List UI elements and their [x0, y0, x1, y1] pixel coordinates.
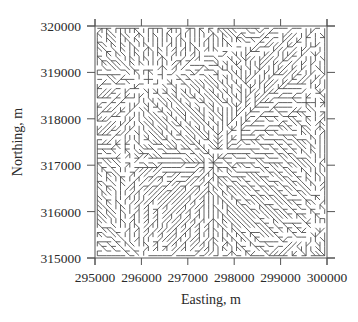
x-tick-label: 296000	[121, 270, 162, 285]
x-tick-label: 295000	[75, 270, 116, 285]
y-tick-label: 316000	[41, 205, 82, 220]
x-axis-ticks: 295000296000297000298000299000300000	[75, 19, 348, 285]
y-tick-label: 319000	[41, 65, 82, 80]
flow-direction-segments	[97, 28, 324, 255]
x-tick-label: 297000	[168, 270, 209, 285]
x-tick-label: 299000	[260, 270, 301, 285]
y-tick-label: 317000	[41, 158, 82, 173]
y-tick-label: 320000	[41, 19, 82, 34]
y-tick-label: 315000	[41, 251, 82, 266]
flow-network	[97, 28, 324, 255]
y-tick-label: 318000	[41, 112, 82, 127]
x-axis-title: Easting, m	[181, 292, 241, 307]
y-axis-title: Northing, m	[10, 108, 25, 177]
x-tick-label: 300000	[307, 270, 348, 285]
x-tick-label: 298000	[214, 270, 255, 285]
drainage-network-chart: 295000296000297000298000299000300000 315…	[0, 0, 358, 322]
